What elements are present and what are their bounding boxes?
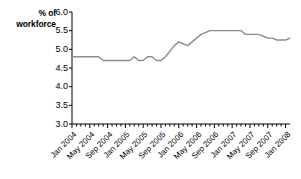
unemployment-rate-line-chart: % of workforce 6.05.55.04.54.03.53.0 Jan… <box>0 0 301 179</box>
data-series-line <box>72 31 290 61</box>
plot-area <box>0 0 301 179</box>
